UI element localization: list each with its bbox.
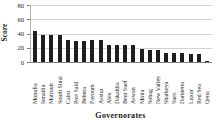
bar-column: Red Sea: [195, 5, 203, 109]
bar: [197, 54, 201, 62]
x-category-label: Ismailia: [40, 64, 46, 104]
x-category-label: South Sinai: [57, 64, 63, 104]
bar-slot: [33, 5, 37, 62]
bar-slot: [82, 5, 86, 62]
bar-slot: [58, 5, 62, 62]
x-category-label: Behera: [81, 64, 87, 104]
bar-slot: [205, 5, 209, 62]
bar: [189, 54, 193, 62]
bar-column: Beni Suef: [121, 5, 129, 109]
bar-slot: [197, 5, 201, 62]
bar-column: Sharkeya: [162, 5, 170, 109]
bar: [99, 40, 103, 62]
bar-slot: [49, 5, 53, 62]
bar: [140, 49, 144, 62]
bar-slot: [148, 5, 152, 62]
bar-slot: [66, 5, 70, 62]
bar-column: Behera: [80, 5, 88, 109]
x-category-label: Monufia: [32, 64, 38, 104]
bar-slot: [140, 5, 144, 62]
x-category-label: Suez: [171, 64, 177, 104]
bar: [148, 50, 152, 62]
x-category-label: Luxor: [188, 64, 194, 104]
x-category-label: Aswan: [130, 64, 136, 104]
x-category-label: Assiut: [98, 64, 104, 104]
bar-column: Qena: [203, 5, 211, 109]
bar-column: Port Said: [72, 5, 80, 109]
bar-column: Luxor: [187, 5, 195, 109]
x-category-label: Damietta: [179, 64, 185, 104]
bar: [82, 41, 86, 62]
y-tick-label: 80: [0, 2, 24, 9]
y-tick-label: 40: [0, 30, 24, 37]
x-category-label: Sharkeya: [163, 64, 169, 104]
bar: [164, 53, 168, 62]
bar: [107, 45, 111, 62]
x-category-label: Dakahlia: [114, 64, 120, 104]
bar-slot: [156, 5, 160, 62]
bar-columns: MonufiaIsmailiaMatrouhSouth SinaiCairoPo…: [31, 5, 211, 109]
bar-slot: [74, 5, 78, 62]
y-tick-mark: [27, 34, 30, 35]
x-category-label: Port Said: [73, 64, 79, 104]
bar-column: New Valley: [154, 5, 162, 109]
bar-column: Matrouh: [47, 5, 55, 109]
y-tick-label: 0: [0, 59, 24, 66]
bar-slot: [90, 5, 94, 62]
bar-slot: [41, 5, 45, 62]
x-category-label: Minia: [139, 64, 145, 104]
bar: [49, 35, 53, 62]
bar-column: Suez: [170, 5, 178, 109]
y-tick-mark: [27, 5, 30, 6]
x-category-label: New Valley: [155, 64, 161, 104]
bar-slot: [172, 5, 176, 62]
bar-column: Damietta: [178, 5, 186, 109]
bar-column: Ismailia: [39, 5, 47, 109]
bar: [66, 40, 70, 62]
y-tick-mark: [27, 62, 30, 63]
bar: [172, 53, 176, 62]
bar-column: Assiut: [97, 5, 105, 109]
y-tick-label: 20: [0, 44, 24, 51]
bar: [205, 61, 209, 62]
y-tick-mark: [27, 19, 30, 20]
bar: [90, 40, 94, 62]
bar-slot: [164, 5, 168, 62]
bar: [41, 35, 45, 62]
bar-column: South Sinai: [56, 5, 64, 109]
x-category-label: Sohag: [147, 64, 153, 104]
bar-slot: [131, 5, 135, 62]
x-category-label: Alex: [106, 64, 112, 104]
bar-slot: [115, 5, 119, 62]
bar-slot: [180, 5, 184, 62]
bar-column: Cairo: [64, 5, 72, 109]
bar-column: Sohag: [146, 5, 154, 109]
bar: [115, 45, 119, 62]
x-category-label: Matrouh: [48, 64, 54, 104]
bar-slot: [107, 5, 111, 62]
bar: [156, 50, 160, 62]
bar-column: Aswan: [129, 5, 137, 109]
x-category-label: Beni Suef: [122, 64, 128, 104]
bar: [58, 35, 62, 62]
bar: [74, 41, 78, 62]
bar: [123, 45, 127, 62]
x-category-label: Cairo: [65, 64, 71, 104]
bar-column: Alex: [105, 5, 113, 109]
x-category-label: Qena: [204, 64, 210, 104]
x-category-label: Red Sea: [196, 64, 202, 104]
bar-column: Fayoum: [88, 5, 96, 109]
x-category-label: Fayoum: [89, 64, 95, 104]
bar-chart: Score MonufiaIsmailiaMatrouhSouth SinaiC…: [0, 0, 217, 122]
y-tick-label: 60: [0, 16, 24, 23]
bar: [33, 31, 37, 62]
bar-column: Minia: [137, 5, 145, 109]
bar: [180, 53, 184, 62]
bar-slot: [189, 5, 193, 62]
y-tick-mark: [27, 48, 30, 49]
x-axis-title: Governorates: [30, 111, 211, 120]
bar-column: Monufia: [31, 5, 39, 109]
bar-slot: [99, 5, 103, 62]
bar: [131, 45, 135, 62]
bar-column: Dakahlia: [113, 5, 121, 109]
